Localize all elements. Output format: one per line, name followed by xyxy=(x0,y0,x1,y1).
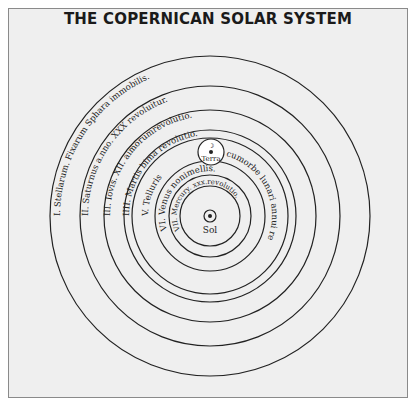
sun-label: Sol xyxy=(203,225,218,235)
earth-label: Terra xyxy=(201,155,220,163)
earth-dot xyxy=(209,150,213,154)
solar-system-diagram: I. Stellarum. Fixarum Sphara immobilis. … xyxy=(0,0,416,406)
sun-dot xyxy=(208,214,212,218)
moon-label: ☽ xyxy=(208,142,214,150)
